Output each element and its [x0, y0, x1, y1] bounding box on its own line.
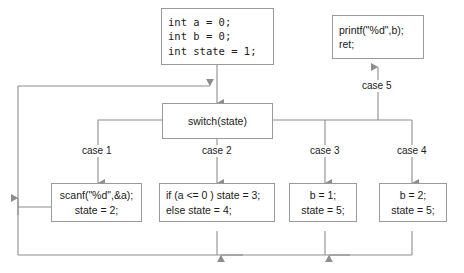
flowchart-canvas: int a = 0; int b = 0; int state = 1; pri…	[0, 0, 464, 273]
case3-block: b = 1; state = 5;	[289, 183, 357, 222]
init-block: int a = 0; int b = 0; int state = 1;	[161, 8, 274, 65]
init-block-line-2: int b = 0;	[162, 29, 273, 43]
case2-block-line-1: if (a <= 0 ) state = 3;	[160, 188, 274, 202]
switch-block: switch(state)	[162, 103, 273, 139]
output-block-line-1: printf("%d",b);	[333, 23, 423, 37]
case3-block-line-2: state = 5;	[290, 203, 356, 217]
edge-label-case3: case 3	[308, 145, 341, 157]
output-block: printf("%d",b); ret;	[332, 15, 424, 59]
case4-block-line-1: b = 2;	[380, 188, 446, 202]
case2-block: if (a <= 0 ) state = 3; else state = 4;	[159, 183, 275, 222]
case1-block-line-1: scanf("%d",&a);	[52, 188, 141, 202]
edge-label-case1: case 1	[80, 145, 113, 157]
output-block-line-2: ret;	[333, 37, 423, 51]
edge-label-case2: case 2	[200, 145, 233, 157]
edge-label-case5: case 5	[360, 80, 393, 92]
case1-block: scanf("%d",&a); state = 2;	[51, 183, 142, 222]
init-block-line-3: int state = 1;	[162, 44, 273, 58]
switch-block-label: switch(state)	[163, 114, 272, 128]
case4-block: b = 2; state = 5;	[379, 183, 447, 222]
case1-block-line-2: state = 2;	[52, 203, 141, 217]
case2-block-line-2: else state = 4;	[160, 203, 274, 217]
case3-block-line-1: b = 1;	[290, 188, 356, 202]
init-block-line-1: int a = 0;	[162, 15, 273, 29]
case4-block-line-2: state = 5;	[380, 203, 446, 217]
edge-label-case4: case 4	[395, 145, 428, 157]
